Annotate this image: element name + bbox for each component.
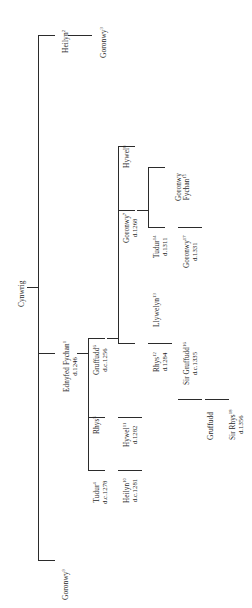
node-goronwy-fychan-15-name-line2: Fychan15 [183, 173, 191, 201]
connector-to-ednyfed [38, 353, 55, 354]
connector-cynwrig-stub [27, 287, 38, 288]
family-tree-diagram: Cynwrig Heilyn2 Goronwy3 Ednyfed Fychan1… [0, 0, 252, 608]
node-goronwy-17-name: Goronwy17 [183, 235, 191, 268]
node-sir-gruffudd-16-date: d.c.1335 [191, 342, 199, 385]
node-goronwy-bottom-name: Goronwy9 [62, 569, 71, 600]
node-gruffudd-6: Gruffudd6 d.c.1256 [93, 345, 109, 375]
node-tudur-14-name: Tudur14 [153, 235, 161, 258]
connector-goronwy7-stub [137, 210, 148, 211]
node-gruffudd-6-name: Gruffudd6 [93, 345, 101, 375]
node-hywel-11-date: d.1282 [131, 423, 139, 447]
node-heilyn-top: Heilyn2 [62, 30, 71, 53]
connector-to-goronwy7 [118, 210, 135, 211]
node-rhys-12-date: d.1284 [161, 352, 169, 372]
node-rhys-12: Rhys12 d.1284 [153, 352, 169, 372]
connector-gruffudd6-spine [118, 146, 119, 343]
node-tudur-14: Tudur14 d.1311 [153, 235, 169, 258]
node-hywel-11: Hywel11 d.1282 [123, 423, 139, 447]
node-sir-gruffudd-16: Sir Gruffudd16 d.c.1335 [183, 342, 199, 385]
node-goronwy-top-name: Goronwy3 [100, 27, 109, 58]
node-goronwy-17: Goronwy17 d.1331 [183, 235, 199, 268]
connector-to-gruffudd6 [88, 338, 105, 339]
connector-ednyfed-spine [88, 338, 89, 470]
connector-to-goronwy-bottom [38, 560, 55, 561]
node-hywel-11-name: Hywel11 [123, 423, 131, 447]
node-rhys-5: Rhys5 [93, 416, 102, 434]
node-goronwy-fychan-15: Goronwy Fychan15 [175, 173, 192, 201]
node-sir-rhys-18: Sir Rhys18 d.1356 [229, 409, 245, 440]
connector-to-goronwy-fychan15 [148, 167, 165, 168]
node-llywelyn-13: Llywelyn13 [153, 293, 162, 327]
node-sir-rhys-18-name: Sir Rhys18 [229, 409, 237, 440]
node-cynwrig: Cynwrig [18, 280, 27, 307]
node-goronwy-7-name: Goronwy7 [123, 213, 131, 243]
node-ednyfed-fychan: Ednyfed Fychan1 d.1246 [63, 341, 79, 392]
node-heilyn-top-name: Heilyn2 [62, 30, 71, 53]
connector-cynwrig-spine [38, 35, 39, 560]
node-sir-gruffudd-16-name: Sir Gruffudd16 [183, 342, 191, 385]
node-goronwy-bottom: Goronwy9 [62, 569, 71, 600]
node-rhys-12-name: Rhys12 [153, 352, 161, 372]
node-sir-rhys-18-date: d.1356 [237, 409, 245, 440]
node-tudur-14-date: d.1311 [161, 235, 169, 258]
node-goronwy-17-date: d.1331 [191, 235, 199, 268]
node-ednyfed-fychan-name: Ednyfed Fychan1 [63, 341, 71, 392]
connector-to-heilyn-top [38, 35, 55, 36]
node-hywel-8: Hywel8 [123, 145, 132, 168]
node-heilyn-10: Heilyn10 d.c.1281 [123, 478, 139, 503]
connector-goronwy7-spine [148, 167, 149, 227]
node-goronwy-top: Goronwy3 [100, 27, 109, 58]
connector-to-rhys12 [118, 343, 135, 344]
connector-rhys12-to-sir-gruffudd16 [148, 343, 172, 344]
connector-gruffudd-to-sir-rhys18 [205, 399, 229, 400]
node-ednyfed-fychan-date: d.1246 [71, 341, 79, 392]
connector-tudur14-to-goronwy17 [178, 227, 202, 228]
connector-heilyn-to-goronwy-top [68, 35, 92, 36]
node-goronwy-7-date: d.1268 [131, 213, 139, 243]
node-heilyn-10-name: Heilyn10 [123, 478, 131, 503]
node-tudur-4: Tudur4 d.c.1278 [93, 481, 109, 504]
node-cynwrig-name: Cynwrig [18, 280, 27, 307]
node-gruffudd-lower-name: Gruffudd [207, 412, 216, 440]
connector-rhys5-to-hywel11 [118, 417, 142, 418]
connector-to-tudur14 [148, 227, 165, 228]
node-heilyn-10-date: d.c.1281 [131, 478, 139, 503]
node-llywelyn-13-name: Llywelyn13 [153, 293, 162, 327]
connector-to-tudur4 [88, 470, 105, 471]
node-tudur-4-date: d.c.1278 [101, 481, 109, 504]
node-goronwy-7: Goronwy7 d.1268 [123, 213, 139, 243]
connector-tudur4-to-heilyn10 [118, 470, 142, 471]
connector-gruffudd6-stub [107, 338, 118, 339]
node-gruffudd-6-date: d.c.1256 [101, 345, 109, 375]
connector-sir-gruffudd16-to-gruffudd [178, 399, 202, 400]
node-rhys-5-name: Rhys5 [93, 416, 102, 434]
node-gruffudd-lower: Gruffudd [207, 412, 216, 440]
node-hywel-8-name: Hywel8 [123, 145, 132, 168]
node-tudur-4-name: Tudur4 [93, 481, 101, 504]
